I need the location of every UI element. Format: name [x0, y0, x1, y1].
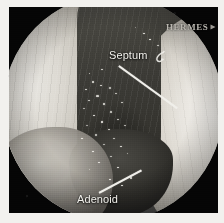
annotation-label-septum: Septum	[109, 49, 148, 61]
secretion-speck	[109, 87, 111, 89]
secretion-speck	[95, 134, 97, 136]
secretion-speck	[93, 115, 95, 116]
right-triangle-marker-icon	[210, 24, 216, 30]
secretion-speck	[101, 69, 103, 70]
curved-hook-arrow-icon	[153, 50, 167, 65]
secretion-speck	[96, 95, 99, 97]
secretion-speck	[103, 103, 105, 105]
secretion-speck	[81, 138, 83, 139]
scanned-page: Septum Adenoid HERMES	[0, 0, 224, 223]
secretion-speck	[149, 39, 151, 40]
secretion-speck	[110, 111, 112, 113]
hermes-overlay-text: HERMES	[166, 22, 208, 32]
secretion-speck	[124, 125, 126, 126]
endoscope-field-of-view	[9, 7, 218, 213]
secretion-speck	[115, 93, 117, 94]
secretion-speck	[92, 151, 94, 152]
annotation-label-adenoid: Adenoid	[77, 193, 118, 205]
secretion-speck	[121, 185, 123, 186]
secretion-speck	[101, 121, 103, 123]
endoscopy-photo-plate: Septum Adenoid HERMES	[9, 7, 218, 213]
secretion-speck	[92, 81, 94, 83]
hermes-device-overlay: HERMES	[166, 22, 216, 32]
